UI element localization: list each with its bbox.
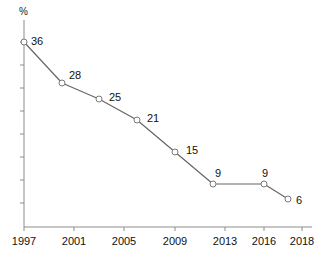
data-point-marker bbox=[96, 96, 102, 102]
data-point-value-label: 15 bbox=[186, 145, 198, 156]
data-point-marker bbox=[261, 181, 267, 187]
data-point-value-label: 9 bbox=[215, 168, 221, 179]
line-chart: % 3628252115996 199720012005200920132016… bbox=[0, 0, 320, 261]
x-axis-tick-label: 2018 bbox=[290, 236, 314, 247]
x-axis bbox=[24, 227, 312, 231]
data-point-marker bbox=[210, 181, 216, 187]
y-axis bbox=[20, 20, 24, 227]
data-point-marker bbox=[134, 117, 140, 123]
data-point-value-label: 25 bbox=[109, 92, 121, 103]
data-point-value-label: 28 bbox=[69, 70, 81, 81]
x-axis-tick-label: 2016 bbox=[252, 236, 276, 247]
x-axis-tick-label: 2005 bbox=[112, 236, 136, 247]
data-point-marker bbox=[21, 39, 27, 45]
x-axis-tick-label: 1997 bbox=[12, 236, 36, 247]
data-point-value-label: 6 bbox=[296, 195, 302, 206]
chart-plot-area bbox=[0, 0, 320, 261]
x-axis-tick-label: 2013 bbox=[213, 236, 237, 247]
data-point-value-label: 36 bbox=[31, 36, 43, 47]
data-point-marker bbox=[59, 80, 65, 86]
x-axis-ticks bbox=[24, 227, 302, 231]
data-point-marker bbox=[285, 196, 291, 202]
data-point-marker bbox=[172, 149, 178, 155]
y-axis-ticks bbox=[20, 42, 24, 203]
x-axis-tick-label: 2001 bbox=[62, 236, 86, 247]
data-point-value-label: 9 bbox=[262, 168, 268, 179]
x-axis-tick-label: 2009 bbox=[163, 236, 187, 247]
data-point-value-label: 21 bbox=[147, 113, 159, 124]
